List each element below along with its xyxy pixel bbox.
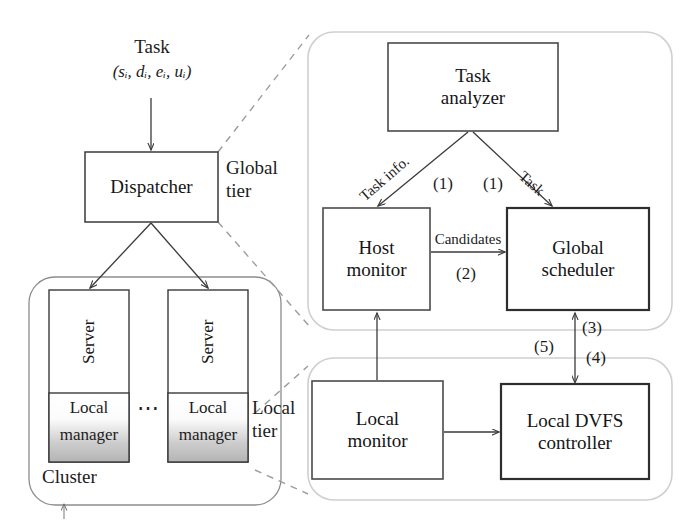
dispatcher-to-servers-arrows bbox=[90, 223, 208, 288]
figure-canvas: Task (sᵢ, dᵢ, eᵢ, uᵢ) Dispatcher Global … bbox=[0, 0, 685, 525]
task-info-edge-label: Task info. bbox=[356, 132, 436, 205]
task-params-label: (sᵢ, dᵢ, eᵢ, uᵢ) bbox=[86, 62, 218, 81]
cluster-label: Cluster bbox=[42, 466, 152, 487]
local-monitor-label-line2: monitor bbox=[347, 430, 407, 452]
local-monitor-label: Local monitor bbox=[312, 381, 443, 479]
dispatcher-label: Dispatcher bbox=[85, 152, 218, 222]
host-monitor-label-line1: Host bbox=[359, 237, 395, 259]
dvfs-down-step-label: (4) bbox=[586, 348, 626, 367]
local-dvfs-controller-label: Local DVFS controller bbox=[501, 384, 649, 479]
global-scheduler-label: Global scheduler bbox=[507, 208, 649, 310]
host-monitor-label: Host monitor bbox=[323, 208, 430, 310]
host-monitor-label-line2: monitor bbox=[346, 259, 406, 281]
global-scheduler-label-line1: Global bbox=[552, 237, 604, 259]
task-analyzer-label: Task analyzer bbox=[388, 43, 558, 131]
candidates-step-label: (2) bbox=[446, 264, 486, 283]
local-monitor-label-line1: Local bbox=[356, 408, 399, 430]
server-1-manager-label-line1: Local bbox=[49, 398, 129, 417]
task-input-label: Task bbox=[104, 36, 200, 57]
monitor-up-step-label: (5) bbox=[534, 337, 574, 356]
server-1-manager-label-line2: manager bbox=[45, 425, 133, 444]
task-step-label: (1) bbox=[473, 174, 513, 193]
scheduler-up-step-label: (3) bbox=[582, 318, 622, 337]
server-1-label: Server bbox=[49, 292, 129, 392]
task-info-step-label: (1) bbox=[423, 174, 463, 193]
candidates-edge-label: Candidates bbox=[428, 231, 508, 248]
server-2-manager-label-line1: Local bbox=[168, 398, 248, 417]
global-scheduler-label-line2: scheduler bbox=[542, 259, 615, 281]
server-2-label: Server bbox=[168, 292, 248, 392]
task-analyzer-label-line2: analyzer bbox=[441, 87, 505, 109]
server-2-manager-label-line2: manager bbox=[164, 425, 252, 444]
servers-ellipsis: ⋯ bbox=[137, 395, 161, 421]
global-tier-label-line1: Global bbox=[226, 157, 306, 178]
task-analyzer-label-line1: Task bbox=[455, 65, 491, 87]
global-tier-label-line2: tier bbox=[226, 180, 306, 201]
local-dvfs-controller-label-line2: controller bbox=[538, 432, 612, 454]
local-dvfs-controller-label-line1: Local DVFS bbox=[527, 410, 624, 432]
